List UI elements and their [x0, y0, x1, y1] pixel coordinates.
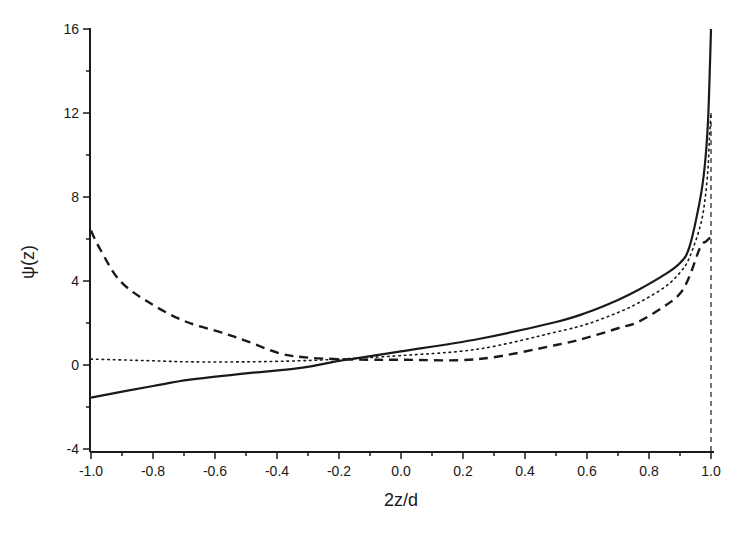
- series-line-solid: [91, 29, 711, 398]
- x-tick-label: -1.0: [79, 463, 103, 479]
- y-tick-label: 0: [71, 357, 79, 373]
- y-axis: -40481216: [63, 21, 90, 457]
- x-tick-label: 0.4: [515, 463, 535, 479]
- y-tick-label: 8: [71, 189, 79, 205]
- x-tick-label: -0.6: [203, 463, 227, 479]
- x-tick-label: 0.2: [453, 463, 473, 479]
- y-tick-label: -4: [67, 441, 80, 457]
- x-ticks: -1.0-0.8-0.6-0.4-0.20.00.20.40.60.81.0: [79, 452, 721, 479]
- x-tick-label: 1.0: [701, 463, 721, 479]
- x-axis: -1.0-0.8-0.6-0.4-0.20.00.20.40.60.81.0: [79, 452, 721, 479]
- y-ticks: -40481216: [63, 21, 90, 457]
- y-axis-title: ψ(z): [18, 245, 38, 279]
- x-tick-label: -0.4: [265, 463, 289, 479]
- x-tick-label: 0.6: [577, 463, 597, 479]
- series-line-dotted: [91, 113, 711, 362]
- chart: -40481216 -1.0-0.8-0.6-0.4-0.20.00.20.40…: [0, 0, 742, 533]
- y-tick-label: 12: [63, 105, 79, 121]
- x-tick-label: -0.2: [327, 463, 351, 479]
- plot-area: [91, 29, 711, 452]
- series-layer: [91, 29, 711, 398]
- x-tick-label: 0.0: [391, 463, 411, 479]
- x-tick-label: 0.8: [639, 463, 659, 479]
- y-tick-label: 16: [63, 21, 79, 37]
- series-line-dashed: [91, 231, 711, 361]
- y-tick-label: 4: [71, 273, 79, 289]
- x-tick-label: -0.8: [141, 463, 165, 479]
- x-axis-title: 2z/d: [384, 490, 418, 510]
